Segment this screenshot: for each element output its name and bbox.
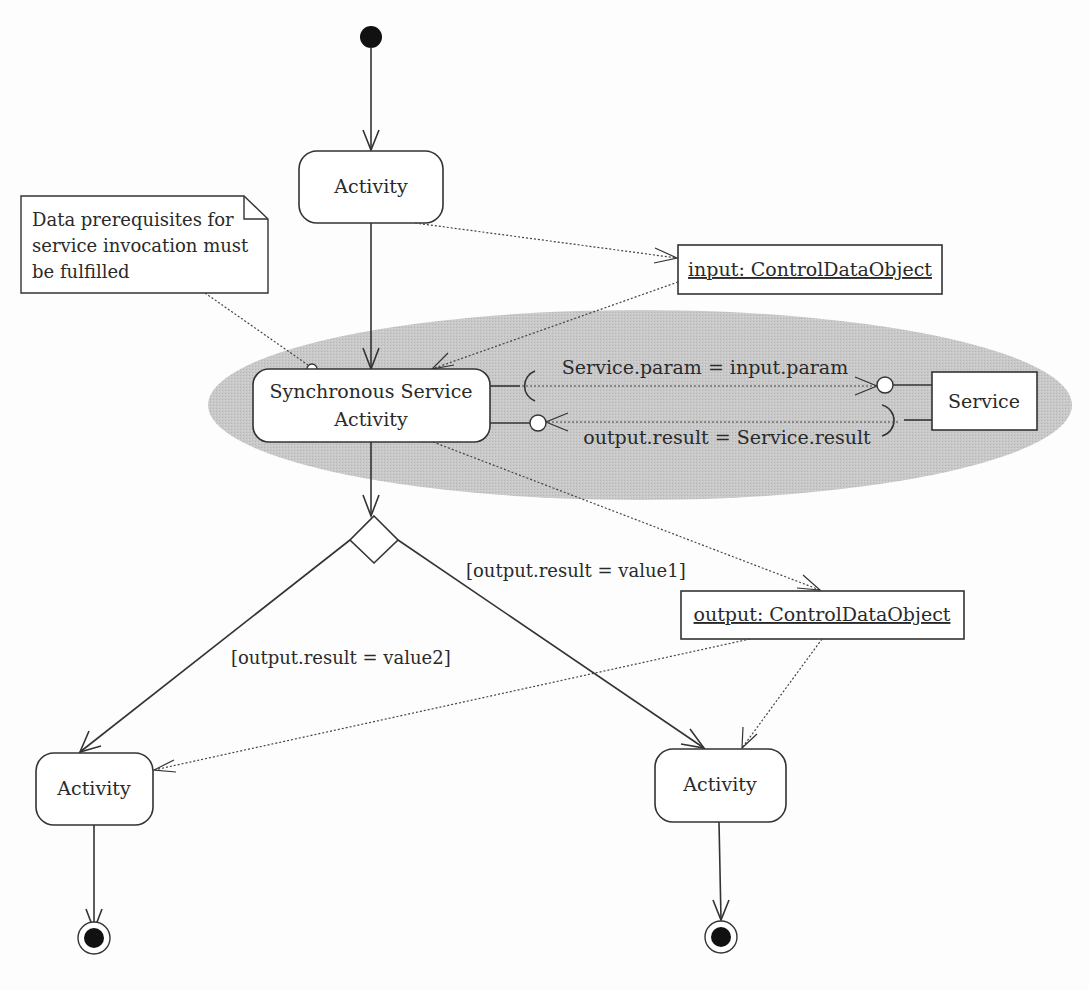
decision-node: [350, 516, 398, 563]
final-node-left: [78, 922, 110, 954]
response-flow-label: output.result = Service.result: [583, 426, 871, 448]
activity-left-label: Activity: [56, 777, 131, 799]
output-object-node[interactable]: output: ControlDataObject: [681, 591, 964, 639]
sync-activity-label-1: Synchronous Service: [269, 380, 472, 402]
flow-decision-to-left-activity: [80, 540, 350, 752]
flow-initial-to-activity: [363, 47, 379, 150]
final-node-right: [705, 921, 737, 953]
flow-right-activity-to-final: [713, 822, 729, 920]
service-label: Service: [948, 390, 1020, 412]
synchronous-service-activity[interactable]: Synchronous Service Activity: [253, 369, 490, 442]
service-component[interactable]: Service: [932, 372, 1037, 430]
flow-left-activity-to-final: [86, 825, 102, 930]
activity-right-label: Activity: [682, 773, 757, 795]
activity-diagram: Activity input: ControlDataObject Data p…: [0, 0, 1089, 990]
objectflow-activity-to-input: [415, 223, 677, 263]
sync-activity-label-2: Activity: [333, 408, 408, 430]
activity-right[interactable]: Activity: [655, 749, 786, 822]
note-line-1: Data prerequisites for: [32, 209, 234, 230]
note-data-prerequisites: Data prerequisites for service invocatio…: [21, 196, 268, 293]
note-line-2: service invocation must: [32, 235, 249, 256]
activity-top[interactable]: Activity: [299, 151, 443, 223]
note-line-3: be fulfilled: [32, 261, 130, 282]
objectflow-output-to-right-activity: [742, 639, 822, 748]
initial-node: [360, 26, 382, 48]
input-object-node[interactable]: input: ControlDataObject: [678, 245, 942, 294]
guard-value2: [output.result = value2]: [231, 647, 451, 668]
activity-top-label: Activity: [333, 175, 408, 197]
output-object-label: output: ControlDataObject: [694, 603, 951, 625]
request-flow-label: Service.param = input.param: [562, 356, 848, 378]
guard-value1: [output.result = value1]: [466, 560, 686, 581]
activity-left[interactable]: Activity: [36, 753, 153, 825]
input-object-label: input: ControlDataObject: [688, 258, 932, 280]
